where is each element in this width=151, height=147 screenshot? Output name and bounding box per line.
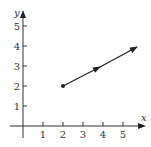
- y-axis-label: y: [13, 7, 20, 18]
- y-tick-label: 4: [14, 41, 20, 52]
- y-tick-label: 1: [14, 101, 20, 112]
- x-tick-label: 4: [100, 129, 106, 140]
- y-tick-label: 3: [14, 61, 20, 72]
- x-axis-label: x: [141, 112, 147, 123]
- coordinate-plane-chart: x y 1 2 3 4 5 1 2 3 4 5: [0, 0, 151, 147]
- x-tick-label: 3: [80, 129, 86, 140]
- start-point: [61, 84, 65, 88]
- x-tick-label: 5: [120, 129, 126, 140]
- x-ticks: 1 2 3 4 5: [40, 122, 126, 140]
- ray-segment: [63, 67, 100, 86]
- y-axis-arrow-icon: [20, 10, 26, 18]
- y-tick-label: 5: [14, 21, 20, 32]
- y-ticks: 1 2 3 4 5: [14, 21, 27, 112]
- x-tick-label: 1: [40, 129, 46, 140]
- axes: x y: [10, 7, 147, 138]
- y-tick-label: 2: [14, 81, 20, 92]
- x-axis-arrow-icon: [138, 123, 146, 129]
- ray-series: [61, 47, 137, 88]
- ray-segment: [100, 47, 137, 67]
- x-tick-label: 2: [60, 129, 66, 140]
